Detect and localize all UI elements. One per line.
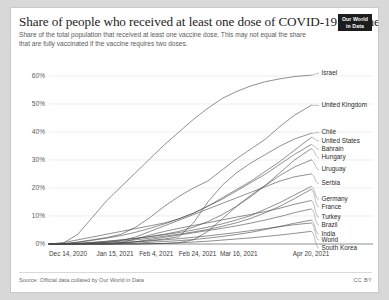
chart-plot-area: 0%10%20%30%40%50%60% IsraelUnited Kingdo… <box>11 48 378 263</box>
series-label[interactable]: United Kingdom <box>322 101 367 109</box>
y-tick-label: 60% <box>32 72 45 79</box>
series-label[interactable]: Chile <box>322 128 337 135</box>
line-chart: 0%10%20%30%40%50%60% IsraelUnited Kingdo… <box>11 48 378 263</box>
our-world-in-data-logo[interactable]: Our World in Data <box>338 14 372 31</box>
series-line[interactable] <box>49 174 311 244</box>
y-tick-label: 20% <box>32 184 45 191</box>
chart-footer: Source: Official data collated by Our Wo… <box>11 272 379 292</box>
leader-line <box>311 138 319 141</box>
x-tick-label: Apr 20, 2021 <box>293 250 330 258</box>
y-tick-label: 30% <box>32 156 45 163</box>
source-note: Source: Official data collated by Our Wo… <box>19 277 144 283</box>
series-label[interactable]: Bahrain <box>322 145 344 152</box>
y-axis-tick-labels: 0%10%20%30%40%50%60% <box>32 72 45 247</box>
series-line[interactable] <box>49 105 311 244</box>
chart-header: Share of people who received at least on… <box>19 14 329 48</box>
series-label[interactable]: Brazil <box>322 221 338 228</box>
page-title: Share of people who received at least on… <box>19 14 329 29</box>
series-label[interactable]: Germany <box>322 195 349 203</box>
license-label[interactable]: CC BY <box>353 277 372 283</box>
series-label[interactable]: France <box>322 203 342 210</box>
x-tick-label: Dec 14, 2020 <box>49 250 87 257</box>
x-tick-label: Feb 4, 2021 <box>139 250 174 257</box>
x-tick-label: Mar 16, 2021 <box>220 250 258 257</box>
footer-divider <box>19 272 372 273</box>
series-label[interactable]: Serbia <box>322 179 341 186</box>
series-label[interactable]: Uruguay <box>322 165 347 173</box>
chart-card: Share of people who received at least on… <box>10 7 379 293</box>
leader-line <box>311 209 319 225</box>
x-tick-label: Feb 24, 2021 <box>179 250 217 257</box>
leader-line <box>311 160 319 170</box>
series-line[interactable] <box>49 145 311 244</box>
leader-line <box>311 223 319 240</box>
leader-line <box>311 133 319 134</box>
leader-line <box>311 201 319 218</box>
leader-line <box>311 145 319 150</box>
series-line[interactable] <box>49 133 311 244</box>
y-tick-label: 10% <box>32 212 45 219</box>
x-axis-tick-labels: Dec 14, 2020Jan 15, 2021Feb 4, 2021Feb 2… <box>49 250 330 258</box>
leader-line <box>311 174 319 184</box>
series-lines <box>49 75 311 244</box>
leader-line <box>311 73 319 75</box>
series-label[interactable]: Turkey <box>322 213 342 221</box>
series-leader-lines <box>311 73 319 248</box>
y-tick-label: 40% <box>32 128 45 135</box>
y-tick-label: 50% <box>32 100 45 107</box>
series-label[interactable]: Israel <box>322 69 338 76</box>
series-line[interactable] <box>49 149 311 244</box>
x-tick-label: Jan 15, 2021 <box>97 250 134 257</box>
series-label[interactable]: United States <box>322 137 360 144</box>
chart-subtitle: Share of the total population that recei… <box>19 31 311 48</box>
logo-line-1: Our World <box>338 16 372 23</box>
series-label[interactable]: World <box>322 236 339 243</box>
y-tick-label: 0% <box>35 240 45 247</box>
leader-line <box>311 149 319 158</box>
logo-line-2: in Data <box>338 23 372 30</box>
series-label[interactable]: Hungary <box>322 153 347 161</box>
